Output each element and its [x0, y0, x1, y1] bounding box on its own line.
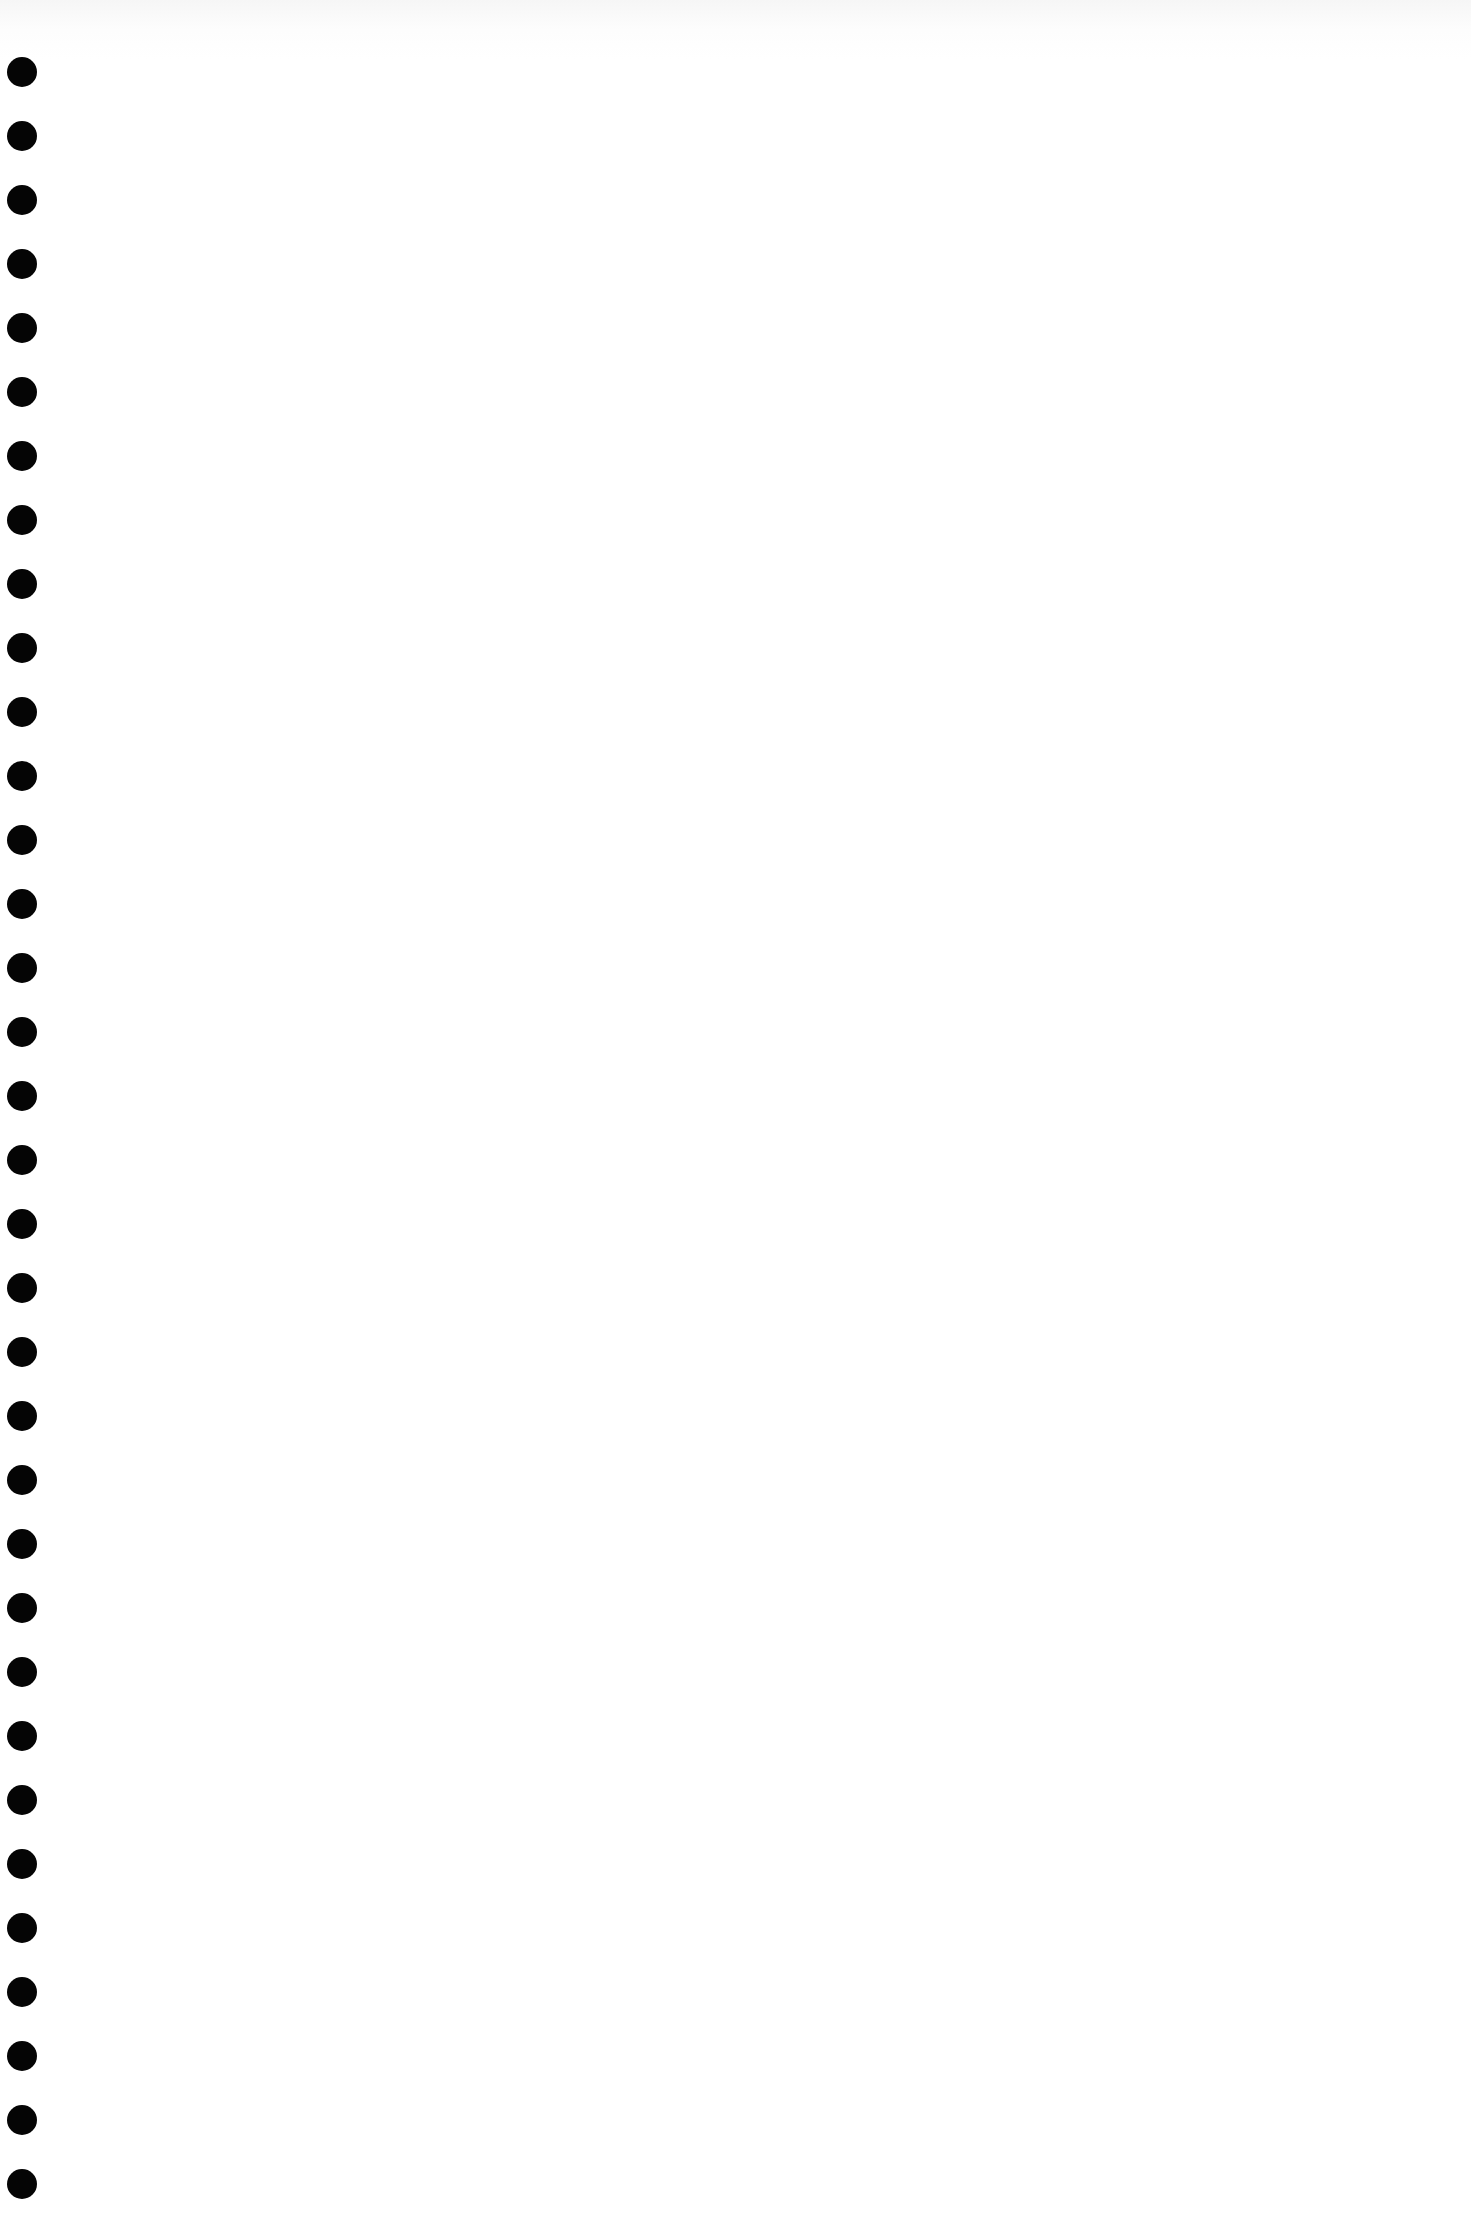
binding-hole: [7, 1465, 37, 1495]
binding-hole: [7, 1209, 37, 1239]
binding-hole: [7, 505, 37, 535]
binding-hole: [7, 1081, 37, 1111]
binding-hole: [7, 1401, 37, 1431]
binding-holes: [0, 0, 60, 2235]
binding-hole: [7, 1017, 37, 1047]
binding-hole: [7, 1593, 37, 1623]
binding-hole: [7, 1785, 37, 1815]
binding-hole: [7, 569, 37, 599]
binding-hole: [7, 633, 37, 663]
binding-hole: [7, 441, 37, 471]
binding-hole: [7, 1849, 37, 1879]
binding-hole: [7, 825, 37, 855]
binding-hole: [7, 1337, 37, 1367]
binding-hole: [7, 2169, 37, 2199]
binding-hole: [7, 313, 37, 343]
binding-hole: [7, 57, 37, 87]
binding-hole: [7, 377, 37, 407]
binding-hole: [7, 889, 37, 919]
binding-hole: [7, 1145, 37, 1175]
binding-hole: [7, 249, 37, 279]
binding-hole: [7, 185, 37, 215]
binding-hole: [7, 2105, 37, 2135]
binding-hole: [7, 2041, 37, 2071]
binding-hole: [7, 1977, 37, 2007]
binding-hole: [7, 761, 37, 791]
binding-hole: [7, 1913, 37, 1943]
paper-sheet: [0, 0, 1471, 2235]
binding-hole: [7, 1529, 37, 1559]
binding-hole: [7, 121, 37, 151]
binding-hole: [7, 1273, 37, 1303]
binding-hole: [7, 1721, 37, 1751]
binding-hole: [7, 953, 37, 983]
binding-hole: [7, 697, 37, 727]
binding-hole: [7, 1657, 37, 1687]
